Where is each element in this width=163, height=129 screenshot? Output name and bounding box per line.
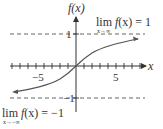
lim-value: (x) = 1 <box>118 15 151 29</box>
y-axis-label: f(x) <box>68 1 85 15</box>
lim-label: lim <box>2 106 21 120</box>
x-tick-label-neg5: −5 <box>32 71 44 83</box>
curve-arrow-right <box>133 37 139 42</box>
x-axis-label: x <box>147 59 154 73</box>
y-tick-label-1: 1 <box>66 28 72 40</box>
limit-annotation-positive-infinity: lim f(x) = 1 x→∞ <box>96 13 151 34</box>
limit-annotation-negative-infinity: lim f(x) = −1 x→−∞ <box>2 104 64 125</box>
limit-graph-figure: f(x) x −5 5 1 −1 lim f(x) = 1 x→∞ lim f(… <box>0 0 163 129</box>
y-tick-label-neg1: −1 <box>63 92 75 104</box>
lim-value: (x) = −1 <box>24 106 64 120</box>
lim-label: lim <box>96 15 115 29</box>
curve-arrow-left <box>12 90 18 95</box>
x-tick-label-5: 5 <box>113 71 119 83</box>
